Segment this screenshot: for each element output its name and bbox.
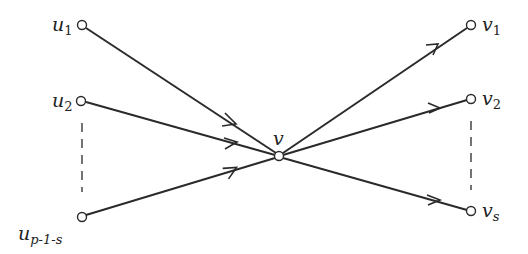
edge-up-v (86, 158, 275, 215)
label-u1: u1 (52, 13, 73, 38)
label-u2: u2 (52, 89, 73, 114)
node-u2 (77, 97, 86, 106)
label-v2: v2 (482, 87, 501, 112)
node-u1 (78, 21, 87, 30)
label-v: v (273, 127, 284, 149)
node-u-p-1-s (78, 213, 87, 222)
graph-diagram: u1 u2 up-1-s v v1 v2 vs (0, 0, 528, 254)
node-v (275, 152, 284, 161)
node-v1 (467, 21, 476, 30)
arrow-icon (426, 44, 438, 55)
label-v1: v1 (482, 13, 501, 38)
label-vs: vs (482, 199, 500, 224)
label-u-p-1-s: up-1-s (18, 222, 63, 247)
edge-u1-v (86, 28, 276, 153)
edge-v-vs (283, 158, 467, 210)
node-vs (467, 207, 476, 216)
node-v2 (467, 95, 476, 104)
edge-v-v1 (283, 28, 467, 153)
edge-u2-v (86, 102, 275, 155)
